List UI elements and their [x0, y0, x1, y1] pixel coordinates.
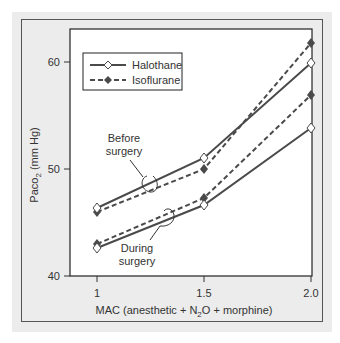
x-tick-label: 2.0 [303, 287, 318, 299]
legend: Halothane Isoflurane [83, 53, 182, 90]
y-tick-label: 40 [48, 270, 60, 282]
svg-text:During: During [121, 242, 153, 254]
svg-text:surgery: surgery [119, 255, 156, 267]
line-chart: 60 50 40 1 1.5 2.0 MAC (anesthetic + N2O… [0, 0, 340, 343]
svg-text:surgery: surgery [106, 145, 143, 157]
y-axis: 60 50 40 [48, 56, 70, 282]
x-axis: 1 1.5 2.0 [94, 276, 319, 299]
y-tick-label: 60 [48, 56, 60, 68]
x-axis-title: MAC (anesthetic + N2O + morphine) [96, 304, 273, 319]
x-tick-label: 1 [94, 287, 100, 299]
svg-text:Before: Before [108, 132, 140, 144]
x-tick-label: 1.5 [196, 287, 211, 299]
y-axis-title: Paco2 (mm Hg) [28, 127, 43, 202]
y-tick-label: 50 [48, 163, 60, 175]
svg-text:Halothane: Halothane [132, 59, 182, 71]
svg-text:Isoflurane: Isoflurane [132, 74, 180, 86]
